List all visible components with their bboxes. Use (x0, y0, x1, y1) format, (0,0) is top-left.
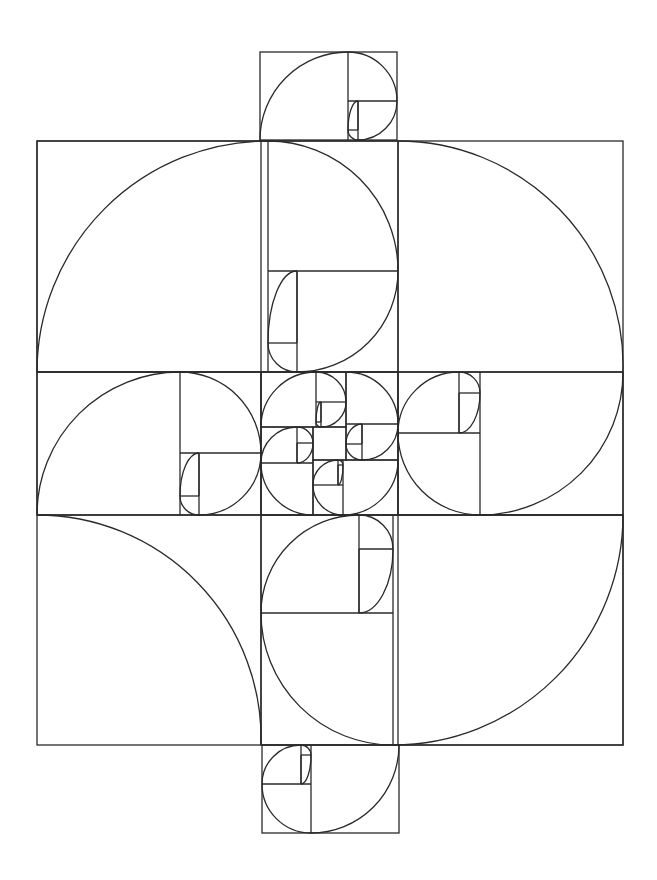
spiral-arc (316, 402, 321, 422)
spiral-arc (268, 271, 297, 343)
spiral-arc (301, 745, 311, 755)
spiral-arc (261, 515, 359, 613)
spiral-arc (346, 424, 362, 444)
spiral-frame (313, 460, 398, 515)
spiral-arc (459, 393, 480, 433)
outer-frame (37, 141, 623, 745)
golden-spiral-diagram (0, 0, 657, 880)
spiral-arc (316, 372, 346, 402)
spiral-arc (262, 784, 311, 833)
spiral-arc (37, 372, 180, 515)
spiral-arc (398, 433, 480, 515)
spiral-arc (338, 460, 343, 465)
spiral-arc (359, 549, 393, 613)
spiral-arc (362, 424, 398, 460)
spiral-arc (297, 427, 313, 443)
spiral-arc (480, 372, 623, 515)
spiral-arc (313, 460, 338, 485)
spiral-arc (338, 465, 343, 485)
spiral-frame (262, 745, 399, 833)
center-square (313, 427, 346, 460)
center-right-spiral (346, 372, 398, 460)
spiral-frame (37, 372, 261, 515)
spiral-arc (393, 515, 623, 745)
spiral-arc (313, 485, 343, 515)
spiral-arc (261, 463, 313, 515)
spiral-frame (260, 52, 397, 140)
spiral-arc (358, 101, 397, 140)
spiral-frame (261, 515, 623, 745)
right-middle-spiral (398, 372, 623, 515)
upper-right-arc (398, 141, 623, 372)
spiral-arc (260, 52, 348, 140)
lower-main-spiral (261, 515, 623, 745)
spiral-frame (398, 372, 623, 515)
spiral-arc (346, 444, 362, 460)
spiral-arc (297, 443, 313, 463)
spiral-arc (348, 101, 358, 130)
spiral-layer (37, 52, 623, 833)
spiral-arc (262, 745, 301, 784)
spiral-arc (261, 427, 297, 463)
lower-left-arc (37, 515, 261, 745)
spiral-arc (348, 130, 358, 140)
spiral-arc (268, 141, 398, 271)
left-middle-spiral (37, 372, 261, 515)
spiral-arc (459, 372, 480, 393)
frame-layer (37, 141, 623, 745)
upper-main-spiral (37, 141, 398, 372)
spiral-arc (348, 52, 397, 101)
spiral-arc (301, 755, 311, 784)
spiral-arc (261, 613, 393, 745)
spiral-arc (268, 343, 297, 372)
spiral-arc (261, 372, 316, 427)
spiral-arc (398, 372, 459, 433)
spiral-arc (311, 745, 399, 833)
spiral-arc (346, 372, 398, 424)
spiral-arc (37, 141, 268, 372)
spiral-arc (343, 460, 398, 515)
spiral-arc (321, 402, 346, 427)
spiral-arc (359, 515, 393, 549)
spiral-frame (37, 141, 398, 372)
center-bottom-spiral (313, 460, 398, 515)
center-top-spiral (261, 372, 346, 427)
spiral-arc (316, 422, 321, 427)
center-left-spiral (261, 427, 313, 515)
spiral-arc (180, 453, 199, 496)
spiral-arc (180, 496, 199, 515)
spiral-frame (261, 372, 346, 427)
top-spiral (260, 52, 397, 140)
spiral-arc (297, 271, 398, 372)
spiral-arc (180, 372, 261, 453)
bottom-spiral (262, 745, 399, 833)
spiral-arc (199, 453, 261, 515)
